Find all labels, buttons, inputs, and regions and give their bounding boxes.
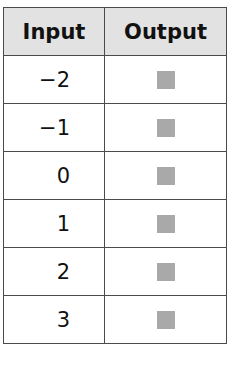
table-row: 3	[4, 296, 227, 344]
blank-placeholder-icon	[157, 119, 175, 137]
input-value: −1	[4, 104, 105, 152]
output-cell	[105, 200, 227, 248]
table-row: −1	[4, 104, 227, 152]
blank-placeholder-icon	[157, 263, 175, 281]
blank-placeholder-icon	[157, 215, 175, 233]
input-value: 2	[4, 248, 105, 296]
output-cell	[105, 152, 227, 200]
blank-placeholder-icon	[157, 167, 175, 185]
header-row: Input Output	[4, 8, 227, 56]
output-cell	[105, 104, 227, 152]
input-value: 3	[4, 296, 105, 344]
input-value: 1	[4, 200, 105, 248]
output-cell	[105, 248, 227, 296]
input-output-table: Input Output −2−10123	[3, 7, 227, 344]
input-value: 0	[4, 152, 105, 200]
input-value: −2	[4, 56, 105, 104]
blank-placeholder-icon	[157, 311, 175, 329]
table-row: 0	[4, 152, 227, 200]
header-output: Output	[105, 8, 227, 56]
header-input: Input	[4, 8, 105, 56]
table-row: 2	[4, 248, 227, 296]
table-row: 1	[4, 200, 227, 248]
output-cell	[105, 56, 227, 104]
table-row: −2	[4, 56, 227, 104]
blank-placeholder-icon	[157, 71, 175, 89]
output-cell	[105, 296, 227, 344]
